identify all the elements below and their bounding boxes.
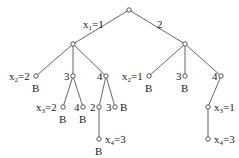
- labels: x1=1 2 x2=2 B 3 4 x2=1 B 3 B 4 x3=2 B 4 …: [9, 18, 235, 157]
- node-n11: [34, 74, 38, 78]
- bound-n22: B: [181, 82, 188, 94]
- node-n12: [71, 74, 75, 78]
- label-n21: x2=1: [122, 70, 143, 84]
- label-edge-2: 2: [157, 18, 163, 30]
- label-n131: 2: [90, 101, 96, 113]
- label-n11: x2=2: [9, 70, 30, 84]
- node-n131: [97, 105, 101, 109]
- node-n22: [183, 74, 187, 78]
- node-n21: [147, 74, 151, 78]
- search-tree-diagram: x1=1 2 x2=2 B 3 4 x2=1 B 3 B 4 x3=2 B 4 …: [0, 0, 239, 158]
- node-n13: [104, 74, 108, 78]
- node-n231: [206, 105, 210, 109]
- label-n231: x3=1: [214, 101, 235, 115]
- label-n23: 4: [212, 70, 218, 82]
- node-n132: [113, 105, 117, 109]
- bound-n121: B: [59, 113, 66, 125]
- node-root: [127, 8, 131, 12]
- label-n1311: x4=3: [105, 133, 126, 147]
- bound-n21: B: [145, 82, 152, 94]
- node-n1311: [97, 137, 101, 141]
- node-n122: [81, 105, 85, 109]
- label-n22: 3: [176, 70, 182, 82]
- node-n2: [183, 42, 187, 46]
- bound-n11: B: [32, 82, 39, 94]
- label-n132: 3: [106, 101, 112, 113]
- label-n12: 3: [64, 70, 70, 82]
- label-edge-x1: x1=1: [83, 18, 104, 32]
- bound-n132: B: [120, 101, 127, 113]
- node-n1: [71, 42, 75, 46]
- label-n2311: x4=3: [214, 133, 235, 147]
- label-n122: 4: [74, 101, 80, 113]
- node-n23: [219, 74, 223, 78]
- node-n121: [61, 105, 65, 109]
- label-n13: 4: [97, 70, 103, 82]
- bound-n1311: B: [95, 145, 102, 157]
- node-n2311: [206, 137, 210, 141]
- label-n121: x3=2: [36, 101, 57, 115]
- bound-n122: B: [79, 113, 86, 125]
